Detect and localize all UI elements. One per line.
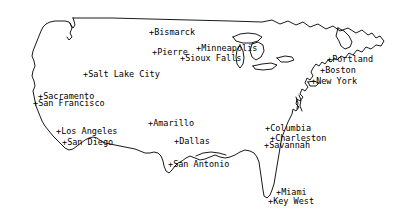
chesapeake-bay: [296, 95, 302, 111]
puget-sound-notch: [67, 23, 72, 40]
city-marker-san-francisco[interactable]: +San Francisco: [33, 99, 105, 108]
city-marker-key-west[interactable]: +Key West: [268, 197, 314, 206]
city-label: Amarillo: [153, 118, 194, 128]
lake-erie: [253, 63, 277, 70]
city-marker-san-diego[interactable]: +San Diego: [62, 138, 113, 147]
city-label: San Antonio: [173, 159, 229, 169]
texas-gulf-coast: [196, 152, 226, 156]
city-label: Bismarck: [154, 27, 195, 37]
city-label: Portland: [332, 54, 373, 64]
city-label: Savannah: [269, 140, 310, 150]
city-label: Dallas: [179, 136, 210, 146]
city-label: San Diego: [67, 137, 113, 147]
city-marker-minneapolis[interactable]: +Minneapolis: [196, 44, 257, 53]
city-marker-amarillo[interactable]: +Amarillo: [148, 119, 194, 128]
city-marker-portland[interactable]: +Portland: [327, 55, 373, 64]
city-marker-dallas[interactable]: +Dallas: [174, 137, 210, 146]
city-marker-los-angeles[interactable]: +Los Angeles: [56, 127, 117, 136]
city-label: Los Angeles: [61, 126, 117, 136]
city-label: Minneapolis: [201, 43, 257, 53]
city-label: Key West: [273, 196, 314, 206]
city-marker-columbia[interactable]: +Columbia: [265, 124, 311, 133]
city-marker-new-york[interactable]: +New York: [311, 77, 357, 86]
city-marker-sioux-falls[interactable]: +Sioux Falls: [180, 54, 241, 63]
city-label: Salt Lake City: [88, 69, 160, 79]
city-marker-savannah[interactable]: +Savannah: [264, 141, 310, 150]
map-outline-layer: [0, 0, 403, 219]
city-label: New York: [316, 76, 357, 86]
city-marker-boston[interactable]: +Boston: [320, 66, 356, 75]
city-label: Boston: [325, 65, 356, 75]
city-marker-bismarck[interactable]: +Bismarck: [149, 28, 195, 37]
city-label: Sioux Falls: [185, 53, 241, 63]
city-marker-san-antonio[interactable]: +San Antonio: [168, 160, 229, 169]
lake-superior: [233, 33, 262, 43]
maine-outline: [336, 28, 352, 49]
city-marker-salt-lake-city[interactable]: +Salt Lake City: [83, 70, 160, 79]
lake-ontario: [277, 56, 294, 62]
us-city-map: +Bismarck+Pierre+Minneapolis+Sioux Falls…: [0, 0, 403, 219]
city-label: Columbia: [270, 123, 311, 133]
city-label: San Francisco: [38, 98, 105, 108]
